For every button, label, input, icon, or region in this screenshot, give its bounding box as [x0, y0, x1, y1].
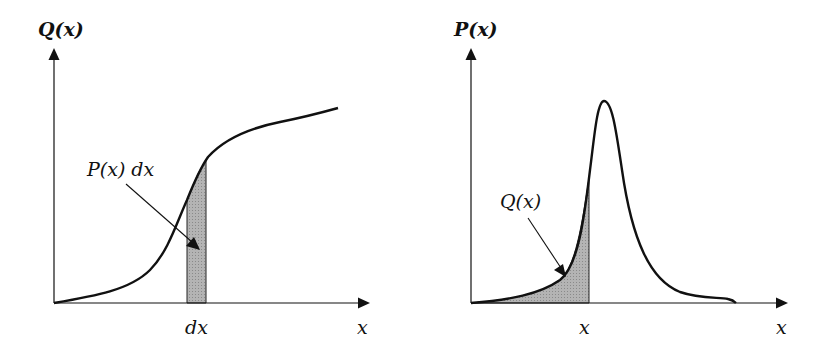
y-axis-arrowhead-right — [466, 48, 477, 60]
figure: Q(x) P(x) dx dx x P(x) Q(x) x x — [0, 0, 824, 354]
y-axis-arrowhead-left — [49, 48, 60, 60]
x-axis-arrowhead-left — [358, 298, 370, 309]
x-axis-arrowhead-right — [776, 298, 788, 309]
right-panel — [466, 48, 789, 309]
x-axis-label-right: x — [776, 318, 787, 337]
x-marker-label: x — [579, 318, 590, 337]
x-axis-label-left: x — [357, 318, 368, 337]
y-axis-label-left: Q(x) — [38, 20, 84, 39]
p-dx-strip — [187, 160, 206, 303]
annotation-arrow-right — [528, 218, 561, 268]
y-axis-label-right: P(x) — [454, 20, 498, 39]
annotation-label-right: Q(x) — [500, 192, 541, 211]
annotation-label-left: P(x) dx — [87, 160, 154, 179]
strip-width-label: dx — [185, 318, 208, 337]
